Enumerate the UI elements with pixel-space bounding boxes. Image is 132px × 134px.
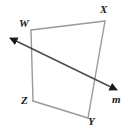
vertex-label-w: W <box>19 18 29 29</box>
quadrilateral-wxyz <box>31 21 105 118</box>
vertex-label-z: Z <box>21 95 28 106</box>
geometry-figure: W X Y Z m <box>0 0 132 134</box>
edge-w-x <box>31 21 105 30</box>
vertex-label-y: Y <box>88 116 95 127</box>
vertex-label-x: X <box>100 4 107 15</box>
edge-x-y <box>88 21 105 118</box>
line-label-m: m <box>112 94 121 105</box>
edge-y-z <box>33 101 88 118</box>
edge-z-w <box>31 30 33 101</box>
